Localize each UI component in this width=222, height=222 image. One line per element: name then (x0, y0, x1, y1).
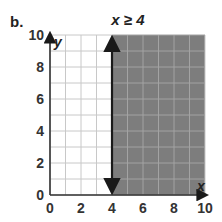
y-tick-label: 10 (28, 27, 44, 43)
x-tick-label: 6 (139, 200, 147, 216)
x-tick-label: 4 (108, 200, 116, 216)
x-axis-label: x (196, 178, 206, 194)
y-axis-label: y (53, 34, 63, 50)
y-tick-label: 4 (36, 123, 44, 139)
x-tick-label: 8 (170, 200, 178, 216)
x-tick-label: 2 (77, 200, 85, 216)
y-tick-label: 6 (36, 91, 44, 107)
inequality-graph: 02468100246810xy (0, 0, 222, 222)
x-tick-label: 0 (46, 200, 54, 216)
y-tick-label: 0 (36, 187, 44, 203)
x-tick-label: 10 (197, 200, 213, 216)
y-tick-label: 8 (36, 59, 44, 75)
y-tick-label: 2 (36, 155, 44, 171)
